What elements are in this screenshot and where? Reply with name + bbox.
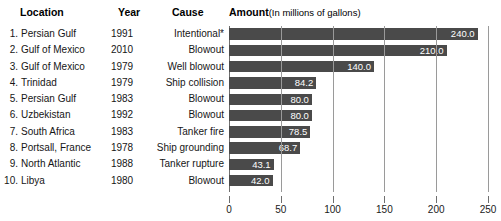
- row-year: 1978: [104, 140, 140, 156]
- bar-row: 84.2: [229, 75, 488, 91]
- axis-tick: [281, 196, 282, 203]
- bar: 140.0: [229, 61, 374, 72]
- row-location: Persian Gulf: [21, 26, 76, 42]
- row-cause: Blowout: [140, 42, 224, 58]
- row-year: 1983: [104, 124, 140, 140]
- axis-tick-label: 200: [428, 204, 445, 215]
- row-location: Trinidad: [21, 75, 57, 91]
- row-rank: 10.: [0, 173, 18, 189]
- row-rank: 4.: [0, 75, 18, 91]
- bar-chart: 240.0210.0140.084.280.080.078.568.743.14…: [229, 26, 491, 196]
- bar-row: 68.7: [229, 140, 488, 156]
- row-location: Libya: [21, 173, 45, 189]
- bar: 78.5: [229, 126, 310, 137]
- row-cause: Intentional*: [140, 26, 224, 42]
- axis-tick-label: 100: [324, 204, 341, 215]
- bar: 240.0: [229, 28, 478, 39]
- bar-value-label: 84.2: [295, 77, 314, 88]
- row-year: 1992: [104, 107, 140, 123]
- column-header-amount: Amount(In millions of gallons): [229, 6, 361, 19]
- bar-row: 80.0: [229, 91, 488, 107]
- bar: 80.0: [229, 110, 312, 121]
- row-cause: Ship collision: [140, 75, 224, 91]
- axis-tick: [333, 196, 334, 203]
- row-location: Gulf of Mexico: [21, 42, 85, 58]
- gridline: [488, 26, 489, 192]
- bar-series: 240.0210.0140.084.280.080.078.568.743.14…: [229, 26, 491, 196]
- axis-tick: [488, 196, 489, 203]
- row-cause: Tanker fire: [140, 124, 224, 140]
- axis-tick-label: 150: [376, 204, 393, 215]
- row-cause: Tanker rupture: [140, 156, 224, 172]
- row-location: Uzbekistan: [21, 107, 70, 123]
- row-rank: 7.: [0, 124, 18, 140]
- table-row: 6.Uzbekistan1992Blowout: [0, 107, 229, 123]
- bar-value-label: 80.0: [290, 94, 309, 105]
- axis-tick: [384, 196, 385, 203]
- row-year: 1991: [104, 26, 140, 42]
- bar: 84.2: [229, 77, 316, 88]
- row-year: 1979: [104, 59, 140, 75]
- bar-value-label: 78.5: [289, 126, 308, 137]
- row-year: 1979: [104, 75, 140, 91]
- axis-tick: [229, 196, 230, 203]
- gridline: [436, 26, 437, 192]
- table-row: 2.Gulf of Mexico2010Blowout: [0, 42, 229, 58]
- column-header-amount-units: (In millions of gallons): [269, 7, 361, 18]
- gridline: [281, 26, 282, 192]
- table-row: 7.South Africa1983Tanker fire: [0, 124, 229, 140]
- bar-row: 140.0: [229, 59, 488, 75]
- row-rank: 5.: [0, 91, 18, 107]
- table-row: 4.Trinidad1979Ship collision: [0, 75, 229, 91]
- gridline: [333, 26, 334, 192]
- row-cause: Ship grounding: [140, 140, 224, 156]
- bar-row: 210.0: [229, 42, 488, 58]
- oil-spill-chart-screenshot: Location Year Cause Amount(In millions o…: [0, 0, 501, 221]
- table-row: 8.Portsall, France1978Ship grounding: [0, 140, 229, 156]
- bar-row: 43.1: [229, 156, 488, 172]
- row-cause: Blowout: [140, 91, 224, 107]
- table-row: 10.Libya1980Blowout: [0, 173, 229, 189]
- row-location: North Atlantic: [21, 156, 80, 172]
- bar-row: 240.0: [229, 26, 488, 42]
- row-rank: 8.: [0, 140, 18, 156]
- row-location: Persian Gulf: [21, 91, 76, 107]
- bar: 43.1: [229, 159, 274, 170]
- row-location: Portsall, France: [21, 140, 91, 156]
- axis-tick-label: 250: [480, 204, 497, 215]
- row-rank: 9.: [0, 156, 18, 172]
- bar-value-label: 42.0: [251, 175, 270, 186]
- bar-value-label: 210.0: [420, 45, 444, 56]
- row-cause: Blowout: [140, 107, 224, 123]
- row-year: 1983: [104, 91, 140, 107]
- bar-row: 80.0: [229, 108, 488, 124]
- row-cause: Blowout: [140, 173, 224, 189]
- data-table: 1.Persian Gulf1991Intentional*2.Gulf of …: [0, 26, 229, 189]
- bar-value-label: 80.0: [290, 110, 309, 121]
- row-rank: 3.: [0, 59, 18, 75]
- table-row: 9.North Atlantic1988Tanker rupture: [0, 156, 229, 172]
- bar-value-label: 140.0: [347, 61, 371, 72]
- row-location: South Africa: [21, 124, 75, 140]
- bar: 68.7: [229, 142, 300, 153]
- bar-row: 42.0: [229, 173, 488, 189]
- row-rank: 6.: [0, 107, 18, 123]
- bar: 80.0: [229, 94, 312, 105]
- row-rank: 1.: [0, 26, 18, 42]
- gridline: [384, 26, 385, 192]
- bar-row: 78.5: [229, 124, 488, 140]
- row-cause: Well blowout: [140, 59, 224, 75]
- column-header-cause: Cause: [172, 6, 204, 19]
- axis-tick-label: 50: [275, 204, 286, 215]
- axis-tick-label: 0: [226, 204, 232, 215]
- table-row: 3.Gulf of Mexico1979Well blowout: [0, 59, 229, 75]
- column-header-year: Year: [118, 6, 140, 19]
- bar-value-label: 240.0: [451, 28, 475, 39]
- table-row: 1.Persian Gulf1991Intentional*: [0, 26, 229, 42]
- row-year: 2010: [104, 42, 140, 58]
- column-header-location: Location: [20, 6, 64, 19]
- table-row: 5.Persian Gulf1983Blowout: [0, 91, 229, 107]
- row-location: Gulf of Mexico: [21, 59, 85, 75]
- bar: 42.0: [229, 175, 273, 186]
- axis-tick: [436, 196, 437, 203]
